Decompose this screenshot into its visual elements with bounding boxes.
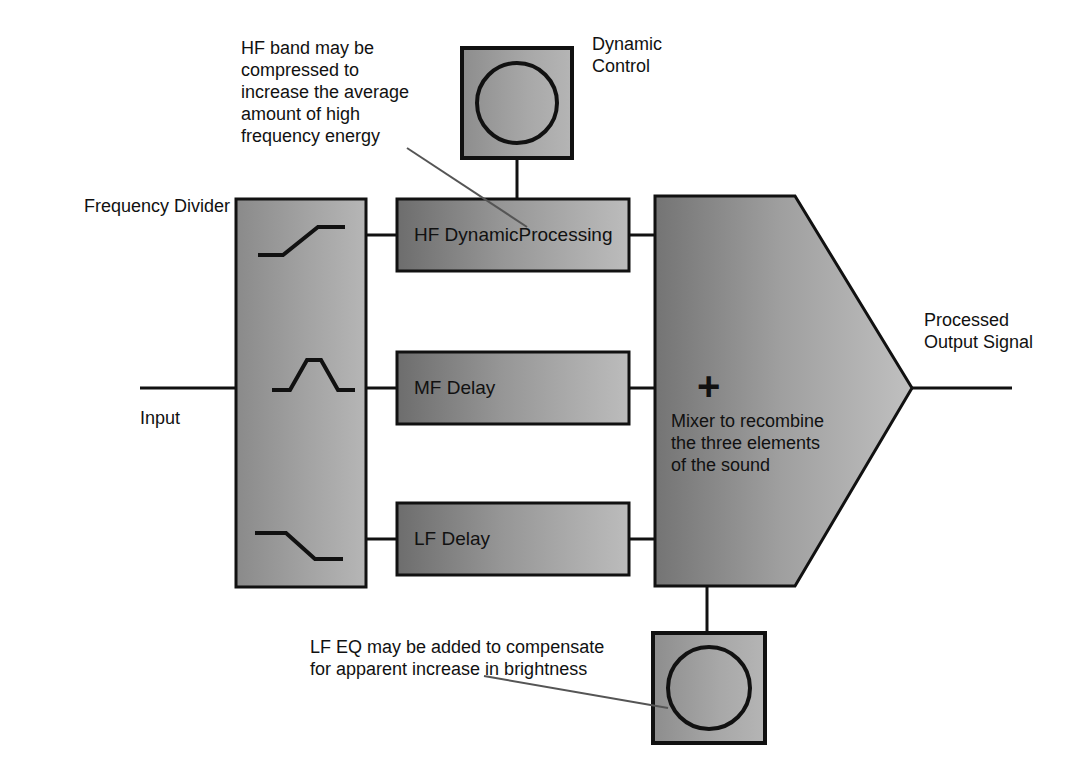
hf-note-line4: amount of high: [241, 104, 360, 125]
hf-note-line3: increase the average: [241, 82, 409, 103]
mixer-plus-symbol: +: [697, 366, 720, 406]
frequency-divider-block[interactable]: [236, 199, 366, 587]
mixer-note-line1: Mixer to recombine: [671, 411, 824, 432]
hf-note-line2: compressed to: [241, 60, 359, 81]
mixer-note-line3: of the sound: [671, 455, 770, 476]
input-label: Input: [140, 408, 180, 429]
dynamic-control-label-line1: Dynamic: [592, 34, 662, 55]
diagram-canvas: Frequency Divider Input Dynamic Control …: [0, 0, 1068, 781]
lf-eq-note-leader-line: [484, 676, 668, 708]
lf-eq-control-box[interactable]: [653, 633, 765, 743]
dynamic-control-box[interactable]: [462, 48, 572, 158]
dynamic-control-label-line2: Control: [592, 56, 650, 77]
hf-note-line1: HF band may be: [241, 38, 374, 59]
frequency-divider-label: Frequency Divider: [84, 196, 230, 217]
mixer-note-line2: the three elements: [671, 433, 820, 454]
hf-dynamic-processing-label: HF DynamicProcessing: [414, 224, 613, 246]
mf-delay-label: MF Delay: [414, 377, 495, 399]
processed-output-label-line1: Processed: [924, 310, 1009, 331]
processed-output-label-line2: Output Signal: [924, 332, 1033, 353]
lf-eq-note-line1: LF EQ may be added to compensate: [310, 637, 604, 658]
hf-note-line5: frequency energy: [241, 126, 380, 147]
lf-delay-label: LF Delay: [414, 528, 490, 550]
lf-eq-note-line2: for apparent increase in brightness: [310, 659, 587, 680]
mixer-block[interactable]: [655, 196, 912, 586]
